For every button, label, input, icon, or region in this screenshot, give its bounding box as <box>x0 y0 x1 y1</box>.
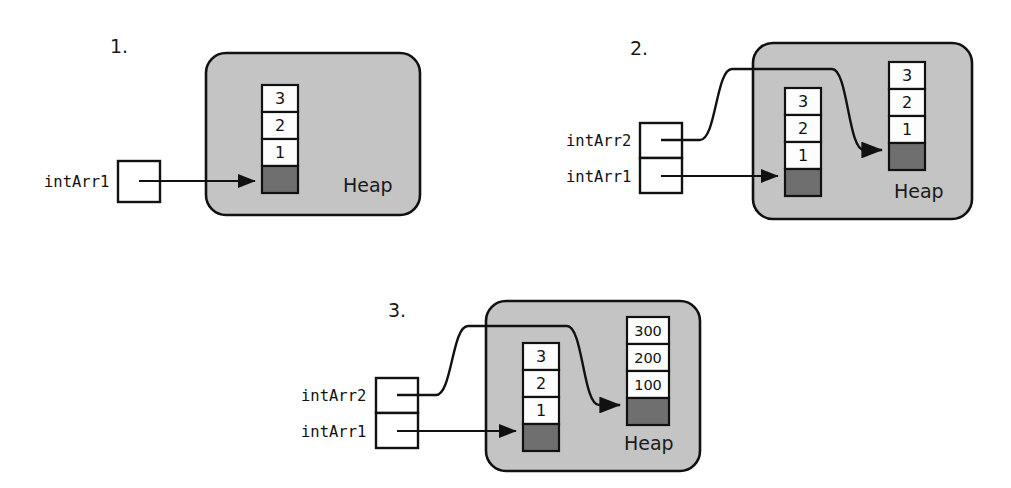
panel-1-array-a-cell-0-value: 3 <box>275 89 285 108</box>
panel-2-heap-label: Heap <box>894 180 944 202</box>
panel-3-array-a-cell-1-value: 2 <box>536 374 546 393</box>
panel-1-number: 1. <box>110 35 128 57</box>
panel-2-array-a-pointer-cell <box>785 169 821 196</box>
panel-3-array-a: 3 2 1 <box>523 343 559 451</box>
panel-3-array-a-pointer-cell <box>523 424 559 451</box>
panel-3-array-a-cell-2-value: 1 <box>536 401 546 420</box>
heap-reference-diagram: 1. Heap intArr1 3 2 1 2. <box>0 0 1011 488</box>
panel-2-array-b-cell-1-value: 2 <box>902 93 912 112</box>
panel-3-array-b-cell-2-value: 100 <box>634 377 662 393</box>
panel-1-array-a-cell-1-value: 2 <box>275 116 285 135</box>
panel-2-array-b-cell-0-value: 3 <box>902 66 912 85</box>
panel-3-var-label-intArr2: intArr2 <box>301 387 366 405</box>
panel-1: 1. Heap intArr1 3 2 1 <box>44 35 420 215</box>
panel-1-heap-label: Heap <box>343 174 393 196</box>
panel-2-array-a-cell-2-value: 1 <box>798 146 808 165</box>
panel-2-var-label-intArr2: intArr2 <box>566 132 631 150</box>
panel-2-array-a-cell-0-value: 3 <box>798 92 808 111</box>
panel-2-array-b-cell-2-value: 1 <box>902 120 912 139</box>
panel-1-var-label-intArr1: intArr1 <box>44 173 109 191</box>
panel-3-array-b-cell-1-value: 200 <box>634 350 662 366</box>
panel-1-array-a: 3 2 1 <box>262 85 298 193</box>
panel-2-var-label-intArr1: intArr1 <box>566 168 631 186</box>
panel-3-array-b-pointer-cell <box>627 398 669 425</box>
panel-3-heap-label: Heap <box>624 432 674 454</box>
panel-1-array-a-cell-2-value: 1 <box>275 143 285 162</box>
panel-3-var-label-intArr1: intArr1 <box>301 423 366 441</box>
panel-2-number: 2. <box>630 37 648 59</box>
diagram-root: 1. Heap intArr1 3 2 1 2. <box>0 0 1011 488</box>
panel-2: 2. Heap intArr2 intArr1 3 2 1 <box>566 37 972 219</box>
panel-3-array-b-cell-0-value: 300 <box>634 323 662 339</box>
panel-1-array-a-pointer-cell <box>262 166 298 193</box>
panel-3-array-a-cell-0-value: 3 <box>536 347 546 366</box>
panel-3-number: 3. <box>388 299 406 321</box>
panel-2-array-b-pointer-cell <box>889 143 925 170</box>
panel-2-array-a-cell-1-value: 2 <box>798 119 808 138</box>
panel-2-array-a: 3 2 1 <box>785 88 821 196</box>
panel-2-array-b: 3 2 1 <box>889 62 925 170</box>
panel-3-array-b: 300 200 100 <box>627 317 669 425</box>
panel-3: 3. Heap intArr2 intArr1 3 2 1 <box>301 299 700 471</box>
